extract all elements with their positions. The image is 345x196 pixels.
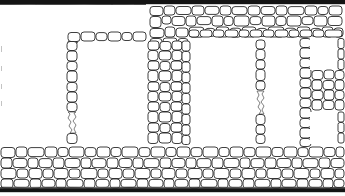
plan-svg-canvas [0,0,345,196]
room-4-void [310,38,342,70]
wall-spine-masonry [148,41,182,144]
east-cells-masonry [310,38,344,144]
wall-partition-b-masonry [300,39,311,147]
room-2-void [190,38,255,143]
south-edge-band [0,187,345,193]
room-5-void [310,112,342,144]
wall-spine-east-face [182,41,190,145]
room-1-void [78,42,146,143]
site-plan-drawing [0,0,345,196]
wall-partition-a-masonry [256,40,265,144]
room-3-void [266,38,300,143]
